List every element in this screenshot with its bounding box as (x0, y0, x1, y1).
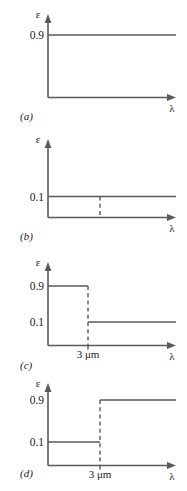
x-axis-arrowhead (167, 94, 176, 101)
emissivity-figure: 0.9 ε λ (a) 0.1 ε λ (b) (0, 0, 187, 491)
y-tick-label-0-1: 0.1 (30, 316, 45, 328)
y-tick-label-0-9: 0.9 (30, 394, 45, 406)
x-axis-label-lambda: λ (169, 102, 175, 114)
y-axis-arrowhead (45, 383, 52, 392)
panel-a-plot: 0.9 ε λ (0, 0, 187, 125)
y-axis-arrowhead (45, 139, 52, 148)
x-tick-label-3-micron: 3 μm (89, 468, 112, 480)
y-tick-label-0-1: 0.1 (30, 191, 45, 203)
y-tick-label-0-9: 0.9 (30, 280, 45, 292)
y-tick-label-0-9: 0.9 (30, 29, 45, 41)
panel-a: 0.9 ε λ (a) (0, 0, 187, 125)
x-axis-label-lambda: λ (169, 222, 175, 234)
y-axis-label-epsilon: ε (36, 8, 41, 20)
panel-caption-b: (b) (20, 231, 33, 242)
y-axis-arrowhead (45, 14, 52, 23)
y-axis-arrowhead (45, 262, 52, 271)
panel-caption-a: (a) (20, 111, 33, 122)
x-axis-arrowhead (167, 342, 176, 349)
y-axis-label-epsilon: ε (36, 133, 41, 145)
y-tick-label-0-1: 0.1 (30, 436, 45, 448)
x-axis-arrowhead (167, 214, 176, 221)
x-axis-label-lambda: λ (169, 470, 175, 482)
y-axis-label-epsilon: ε (36, 256, 41, 268)
panel-caption-d: (d) (20, 468, 33, 479)
x-axis-arrowhead (167, 462, 176, 469)
panel-c: 0.9 0.1 3 μm ε λ (c) (0, 250, 187, 375)
x-axis-label-lambda: λ (169, 350, 175, 362)
panel-b: 0.1 ε λ (b) (0, 125, 187, 250)
panel-c-plot: 0.9 0.1 3 μm ε λ (0, 250, 187, 375)
panel-caption-c: (c) (20, 360, 32, 371)
y-axis-label-epsilon: ε (36, 377, 41, 389)
x-tick-label-3-micron: 3 μm (77, 348, 100, 360)
